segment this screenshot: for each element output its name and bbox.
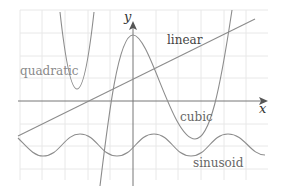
cubic-label: cubic (180, 110, 213, 124)
linear-label: linear (167, 33, 203, 47)
x-axis-label: x (259, 101, 267, 116)
sinusoid-curve (18, 134, 265, 156)
y-axis-label: y (123, 9, 132, 24)
quadratic-label: quadratic (20, 64, 79, 78)
sinusoid-label: sinusoid (193, 156, 244, 170)
grid (20, 10, 268, 180)
function-graphs-diagram: y x quadratic linear cubic sinusoid (0, 0, 283, 186)
